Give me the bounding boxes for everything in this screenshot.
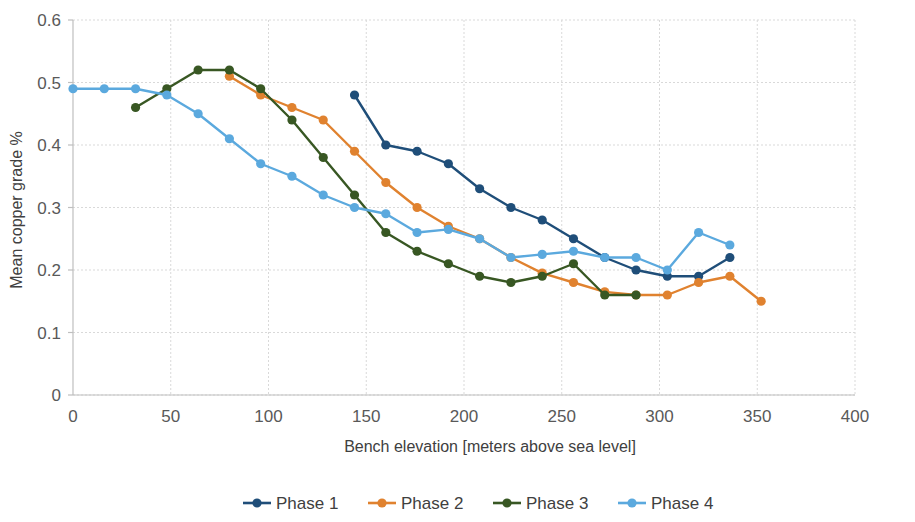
data-point <box>350 190 359 199</box>
y-tick-label: 0.2 <box>37 261 61 280</box>
y-tick-label: 0.3 <box>37 199 61 218</box>
y-tick-label: 0.5 <box>37 74 61 93</box>
data-point <box>475 184 484 193</box>
data-point <box>569 278 578 287</box>
legend-item-phase-4[interactable]: Phase 4 <box>618 494 713 513</box>
data-point <box>694 228 703 237</box>
x-tick-label: 150 <box>352 407 380 426</box>
data-point <box>131 84 140 93</box>
x-tick-label: 50 <box>161 407 180 426</box>
data-point <box>131 103 140 112</box>
series-phase-2 <box>225 72 766 306</box>
data-point <box>506 203 515 212</box>
data-point <box>444 159 453 168</box>
data-point <box>412 203 421 212</box>
x-tick-label: 0 <box>68 407 77 426</box>
legend-item-phase-2[interactable]: Phase 2 <box>368 494 463 513</box>
data-point <box>569 259 578 268</box>
data-point <box>100 84 109 93</box>
data-point <box>475 234 484 243</box>
data-point <box>663 265 672 274</box>
data-point <box>444 225 453 234</box>
legend-label: Phase 3 <box>526 494 588 513</box>
data-point <box>350 147 359 156</box>
data-point <box>287 172 296 181</box>
legend-marker <box>502 498 511 507</box>
data-point <box>725 253 734 262</box>
data-point <box>506 253 515 262</box>
data-point <box>631 290 640 299</box>
chart-container: 00.10.20.30.40.50.6 05010015020025030035… <box>0 0 915 522</box>
data-point <box>381 228 390 237</box>
x-tick-label: 350 <box>743 407 771 426</box>
y-tick-label: 0 <box>52 386 61 405</box>
data-point <box>412 247 421 256</box>
data-point <box>663 290 672 299</box>
legend-item-phase-3[interactable]: Phase 3 <box>493 494 588 513</box>
data-point <box>381 178 390 187</box>
series-line <box>229 76 761 301</box>
data-point <box>569 247 578 256</box>
data-point <box>287 115 296 124</box>
legend-marker <box>252 498 261 507</box>
x-tick-label: 250 <box>548 407 576 426</box>
data-point <box>444 259 453 268</box>
data-point <box>225 65 234 74</box>
data-point <box>631 265 640 274</box>
data-point <box>412 147 421 156</box>
data-point <box>725 240 734 249</box>
legend-marker <box>377 498 386 507</box>
legend-label: Phase 4 <box>651 494 713 513</box>
x-tick-label: 100 <box>254 407 282 426</box>
data-point <box>350 203 359 212</box>
data-point <box>287 103 296 112</box>
series-line <box>355 95 730 276</box>
data-point <box>256 159 265 168</box>
data-point <box>412 228 421 237</box>
y-tick-label: 0.1 <box>37 324 61 343</box>
data-point <box>600 290 609 299</box>
legend-item-phase-1[interactable]: Phase 1 <box>243 494 338 513</box>
series-phase-4 <box>68 84 734 274</box>
data-point <box>569 234 578 243</box>
y-tick-label: 0.6 <box>37 11 61 30</box>
data-point <box>381 140 390 149</box>
x-tick-label: 400 <box>841 407 869 426</box>
chart-legend: Phase 1Phase 2Phase 3Phase 4 <box>243 494 713 513</box>
data-point <box>475 272 484 281</box>
data-point <box>350 90 359 99</box>
data-point <box>162 90 171 99</box>
y-axis-title: Mean copper grade % <box>8 131 25 288</box>
data-point <box>725 272 734 281</box>
data-point <box>381 209 390 218</box>
data-point <box>694 278 703 287</box>
data-point <box>757 297 766 306</box>
data-point <box>68 84 77 93</box>
data-point <box>194 65 203 74</box>
data-point <box>538 250 547 259</box>
data-point <box>538 272 547 281</box>
x-axis-tick-labels: 050100150200250300350400 <box>68 407 869 426</box>
y-tick-label: 0.4 <box>37 136 61 155</box>
legend-label: Phase 2 <box>401 494 463 513</box>
legend-marker <box>627 498 636 507</box>
x-tick-label: 200 <box>450 407 478 426</box>
data-point <box>225 134 234 143</box>
data-point <box>256 84 265 93</box>
data-point <box>319 153 328 162</box>
x-axis-title: Bench elevation [meters above sea level] <box>344 438 636 455</box>
data-point <box>194 109 203 118</box>
data-point <box>600 253 609 262</box>
data-point <box>319 190 328 199</box>
data-point <box>631 253 640 262</box>
legend-label: Phase 1 <box>276 494 338 513</box>
data-point <box>506 278 515 287</box>
data-point <box>538 215 547 224</box>
data-point <box>319 115 328 124</box>
x-tick-label: 300 <box>645 407 673 426</box>
line-chart: 00.10.20.30.40.50.6 05010015020025030035… <box>0 0 915 522</box>
y-axis-tick-labels: 00.10.20.30.40.50.6 <box>37 11 61 405</box>
grid-lines <box>73 20 855 395</box>
